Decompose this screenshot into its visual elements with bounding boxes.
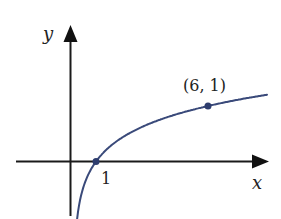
x-axis-label: x: [252, 172, 262, 193]
graph-canvas: y x 1 (6, 1): [0, 0, 281, 219]
point-6-1: [205, 103, 212, 110]
point-x-intercept: [93, 158, 100, 165]
x-axis-arrow-icon: [252, 155, 269, 169]
point-label-6-1: (6, 1): [183, 76, 226, 95]
tick-label-1: 1: [101, 169, 111, 188]
log-curve: [77, 95, 267, 219]
y-axis-arrow-icon: [64, 25, 78, 42]
y-axis-label: y: [42, 23, 54, 44]
